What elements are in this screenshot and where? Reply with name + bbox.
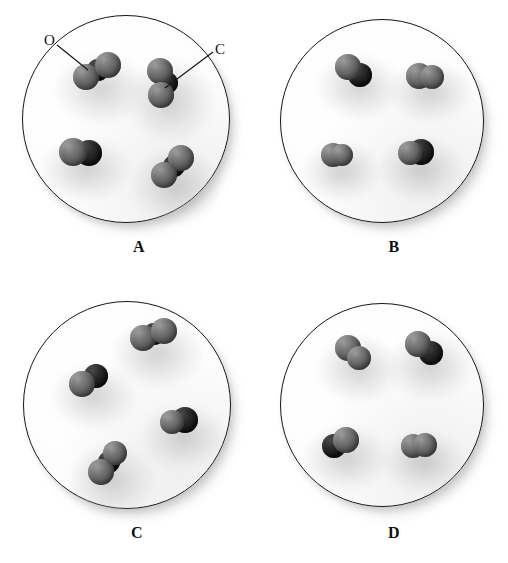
atom-o (333, 427, 359, 453)
molecular-model-figure: OCABCD (0, 0, 508, 563)
molecule-co (320, 424, 364, 460)
vessel-d (280, 303, 484, 507)
panel-d: D (0, 0, 508, 563)
vessel-inner-shading (281, 304, 483, 506)
molecule-o2 (400, 430, 440, 462)
molecule-o2 (334, 334, 376, 372)
molecule-co (404, 330, 448, 370)
atom-o (405, 331, 431, 357)
atom-o (413, 433, 437, 457)
panel-letter-d: D (379, 524, 409, 542)
atom-o (347, 346, 371, 370)
